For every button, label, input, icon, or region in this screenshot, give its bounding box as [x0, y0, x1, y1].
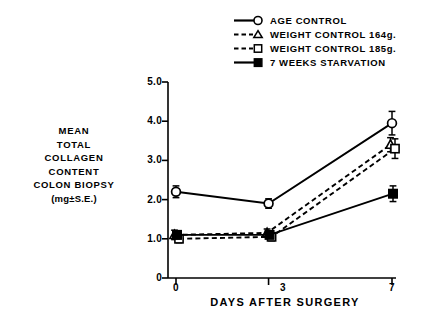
marker-7-weeks-starvation-day-3	[265, 231, 274, 240]
data-series-layer	[170, 111, 399, 243]
marker-age-control-day-3	[264, 199, 273, 208]
plot-area	[0, 0, 440, 325]
series-line-weight-control-164g	[175, 145, 391, 235]
marker-7-weeks-starvation-day-7	[389, 189, 398, 198]
series-age-control	[172, 111, 397, 208]
marker-age-control-day-7	[388, 119, 397, 128]
y-axis-ticks	[162, 82, 168, 278]
axis-spines	[168, 82, 396, 278]
series-line-weight-control-185g	[179, 149, 395, 239]
figure-collagen-content: AGE CONTROL WEIGHT CONTROL 164g. WEIGHT …	[0, 0, 440, 325]
series-weight-control-164g	[170, 138, 395, 240]
series-line-age-control	[176, 123, 392, 203]
x-axis-ticks	[176, 278, 392, 285]
marker-weight-control-185g-day-7	[391, 145, 399, 153]
series-line-7-weeks-starvation	[177, 194, 393, 235]
marker-7-weeks-starvation-day-0	[173, 231, 182, 240]
marker-age-control-day-0	[172, 187, 181, 196]
